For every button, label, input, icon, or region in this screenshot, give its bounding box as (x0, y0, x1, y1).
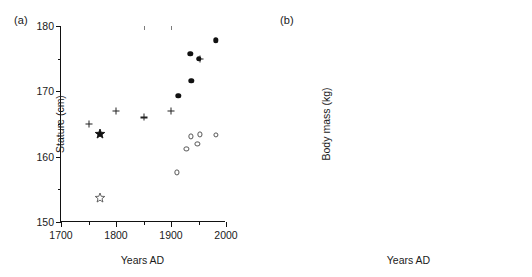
panel-b-y-axis-title: Body mass (kg) (320, 78, 332, 170)
panel-a-point-open-circle (184, 146, 189, 151)
panel-b: (b) 50607080901700180019002000 Years AD … (266, 0, 532, 277)
panel-a-top-tick (171, 26, 172, 30)
panel-a-point-open-circle (198, 132, 203, 137)
panel-a-point-plus (113, 107, 120, 114)
panel-a: (a) 1501601701801700180019002000 Years A… (0, 0, 266, 277)
panel-b-label: (b) (280, 14, 294, 26)
panel-a-point-plus (196, 55, 203, 62)
panel-a-x-tick (61, 222, 62, 227)
panel-a-point-open-circle (195, 142, 200, 147)
panel-a-x-tick (171, 222, 172, 227)
panel-a-x-axis-title: Years AD (121, 254, 164, 266)
panel-a-y-tick-label: 170 (36, 85, 54, 97)
panel-a-y-tick-minor (58, 59, 61, 60)
panel-a-y-tick-label: 160 (36, 151, 54, 163)
panel-a-top-tick (144, 26, 145, 30)
panel-a-point-filled-circle (213, 38, 218, 43)
panel-a-label: (a) (14, 14, 28, 26)
panel-a-x-tick-minor (89, 222, 90, 225)
panel-a-x-tick-label: 1800 (104, 229, 127, 241)
panel-a-y-tick-label: 180 (36, 20, 54, 32)
panel-a-y-tick-label: 150 (36, 216, 54, 228)
panel-a-y-tick (56, 26, 61, 27)
panel-a-point-open-circle (188, 134, 193, 139)
panel-a-point-plus (168, 107, 175, 114)
panel-a-y-tick-minor (58, 189, 61, 190)
panel-a-point-plus (85, 121, 92, 128)
figure-container: (a) 1501601701801700180019002000 Years A… (0, 0, 532, 277)
panel-a-point-filled-star (95, 129, 105, 139)
panel-a-x-tick-label: 1700 (49, 229, 72, 241)
panel-a-point-filled-circle (188, 51, 193, 56)
panel-a-point-open-star (95, 193, 105, 203)
panel-a-x-tick (226, 222, 227, 227)
panel-a-x-tick (116, 222, 117, 227)
panel-a-point-open-circle (174, 170, 179, 175)
panel-a-point-filled-circle (175, 93, 180, 98)
panel-a-x-tick-label: 2000 (214, 229, 237, 241)
panel-a-plot-area: 1501601701801700180019002000 (60, 26, 225, 222)
panel-a-x-tick-minor (199, 222, 200, 225)
panel-a-x-tick-minor (144, 222, 145, 225)
panel-a-point-plus (140, 114, 147, 121)
panel-a-point-filled-circle (196, 56, 201, 61)
panel-a-point-filled-circle (189, 78, 194, 83)
panel-a-point-open-circle (214, 133, 219, 138)
panel-a-x-tick-label: 1900 (159, 229, 182, 241)
panel-a-y-axis-title: Stature (cm) (54, 78, 66, 170)
panel-b-x-axis-title: Years AD (387, 254, 430, 266)
